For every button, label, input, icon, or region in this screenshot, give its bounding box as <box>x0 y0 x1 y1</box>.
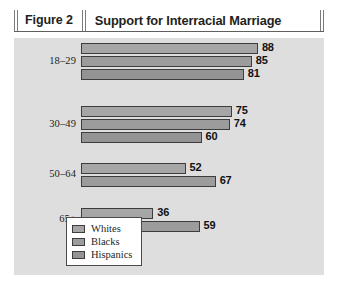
bar-value-label: 85 <box>256 54 268 66</box>
legend-item: Hispanics <box>72 248 132 261</box>
legend-swatch-hispanics <box>72 251 85 259</box>
bar-hispanics <box>81 132 202 143</box>
chart-plot-area: 18–2988858130–4975746050–64526765+3659Wh… <box>14 38 324 275</box>
bar-value-label: 67 <box>220 174 232 186</box>
figure-header: Figure 2 Support for Interracial Marriag… <box>14 8 324 32</box>
bar-row: 74 <box>81 119 324 130</box>
legend-swatch-whites <box>72 225 85 233</box>
bar-value-label: 36 <box>157 206 169 218</box>
bar-row: 88 <box>81 43 324 54</box>
bar-row: 52 <box>81 163 324 174</box>
bar-whites <box>81 43 258 54</box>
bar-value-label: 74 <box>234 117 246 129</box>
bar-hispanics <box>81 69 244 80</box>
category-label: 30–49 <box>14 118 76 129</box>
bar-row: 85 <box>81 56 324 67</box>
legend-label: Whites <box>85 223 121 234</box>
figure-card: Figure 2 Support for Interracial Marriag… <box>0 0 338 288</box>
legend-swatch-blacks <box>72 238 85 246</box>
bar-value-label: 81 <box>248 67 260 79</box>
bar-blacks <box>81 119 230 130</box>
bar-whites <box>81 106 232 117</box>
figure-title: Support for Interracial Marriage <box>86 13 320 28</box>
chart-legend: WhitesBlacksHispanics <box>66 217 142 266</box>
category-label: 18–29 <box>14 55 76 66</box>
bar-row: 60 <box>81 132 324 143</box>
bar-row: 67 <box>81 176 324 187</box>
bar-blacks <box>81 56 252 67</box>
bar-value-label: 75 <box>236 104 248 116</box>
header-underline <box>14 31 324 32</box>
bar-value-label: 59 <box>204 219 216 231</box>
legend-item: Blacks <box>72 235 132 248</box>
bar-value-label: 88 <box>262 41 274 53</box>
legend-label: Blacks <box>85 236 120 247</box>
bar-value-label: 52 <box>190 161 202 173</box>
bar-blacks <box>81 176 216 187</box>
bar-whites <box>81 163 186 174</box>
legend-item: Whites <box>72 222 132 235</box>
bar-value-label: 60 <box>206 130 218 142</box>
header-rule-right <box>320 10 324 31</box>
bar-row: 81 <box>81 69 324 80</box>
legend-label: Hispanics <box>85 249 132 260</box>
category-label: 50–64 <box>14 168 76 179</box>
figure-number-label: Figure 2 <box>18 13 82 27</box>
bar-row: 75 <box>81 106 324 117</box>
